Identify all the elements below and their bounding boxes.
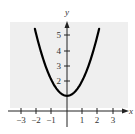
x-axis-arrow-icon [122,109,129,114]
x-tick-labels: −3 −2 −1 1 2 3 [16,115,116,125]
svg-text:5: 5 [57,30,62,40]
y-axis-label: y [64,7,69,17]
svg-text:2: 2 [95,115,100,125]
parabola-graph: −3 −2 −1 1 2 3 x 2 3 4 5 y [0,0,135,134]
svg-text:2: 2 [57,76,62,86]
svg-text:3: 3 [57,61,62,71]
x-axis-label: x [128,106,133,116]
svg-text:−3: −3 [16,115,26,125]
svg-text:3: 3 [111,115,116,125]
svg-text:−1: −1 [46,115,56,125]
svg-text:−2: −2 [31,115,41,125]
svg-text:4: 4 [57,46,62,56]
svg-text:1: 1 [80,115,85,125]
